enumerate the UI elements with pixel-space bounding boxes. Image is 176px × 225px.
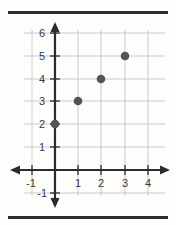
y-tick-label-2: 2 [39,118,45,130]
data-point-0-2 [51,120,60,129]
y-tick-label-6: 6 [39,27,45,39]
x-tick-label-3: 3 [122,177,128,189]
coordinate-plane-svg: 6 5 4 3 2 1 -1 -1 1 2 3 4 [0,0,176,225]
y-tick-label-3: 3 [39,95,45,107]
data-point-3-5 [121,52,130,61]
x-axis-left-arrow-icon [10,166,20,175]
bottom-divider-rule [8,216,168,219]
x-tick-label-1: 1 [75,177,81,189]
grid-lines [24,30,165,196]
y-axis-bottom-arrow-icon [51,198,60,208]
x-tick-label-4: 4 [145,177,151,189]
data-point-1-3 [74,97,83,106]
y-tick-label-neg1: -1 [37,187,47,199]
y-tick-label-5: 5 [39,50,45,62]
top-divider-rule [8,11,168,14]
x-axis-right-arrow-icon [160,166,170,175]
scatter-plot-figure: 6 5 4 3 2 1 -1 -1 1 2 3 4 [0,0,176,225]
y-axis-top-arrow-icon [51,22,60,32]
y-tick-label-4: 4 [39,73,45,85]
data-points [51,52,130,129]
x-tick-label-2: 2 [98,177,104,189]
data-point-2-4 [97,75,106,84]
y-tick-label-1: 1 [39,141,45,153]
tick-labels: 6 5 4 3 2 1 -1 -1 1 2 3 4 [26,27,151,199]
x-tick-label-neg1: -1 [26,177,36,189]
